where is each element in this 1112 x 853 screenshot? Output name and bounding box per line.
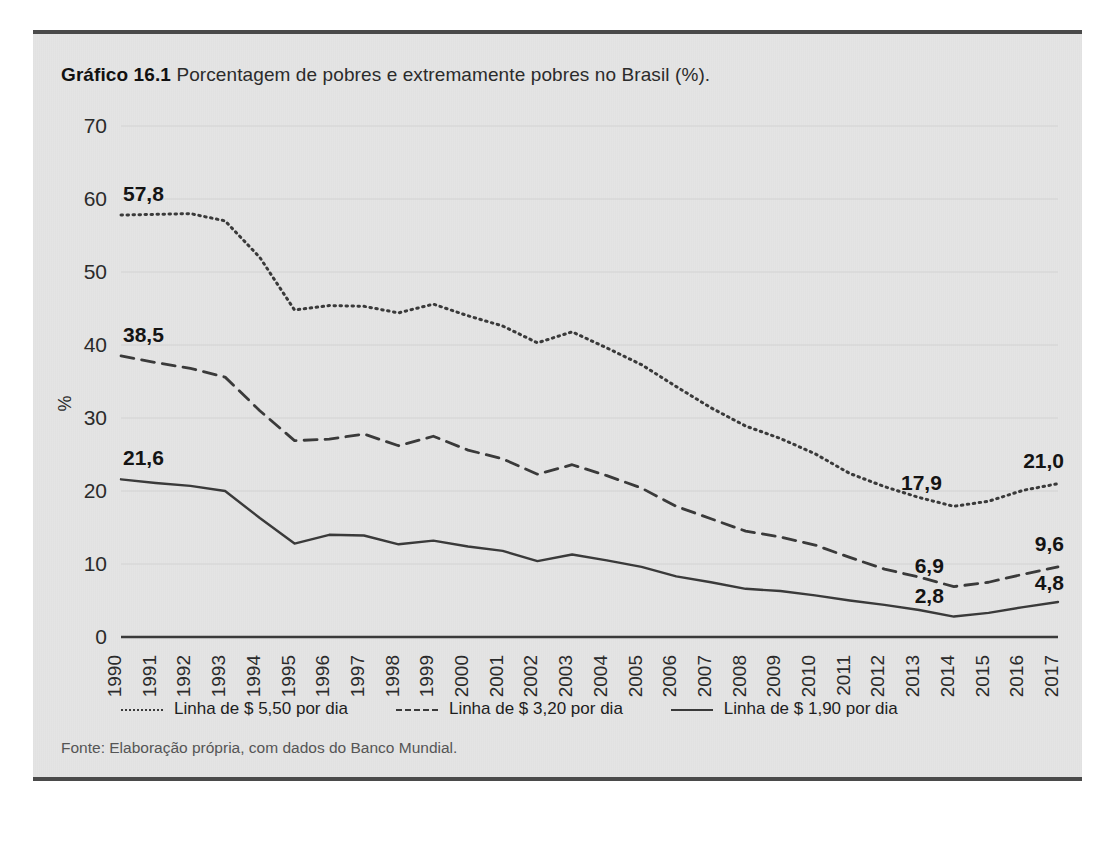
legend-label: Linha de $ 5,50 por dia	[174, 699, 348, 719]
x-axis-tick-label: 1999	[416, 655, 437, 697]
x-axis-tick-label: 2003	[555, 655, 576, 697]
x-axis-tick-label: 2007	[694, 655, 715, 697]
data-point-label: 4,8	[1035, 571, 1065, 594]
legend-entry: Linha de $ 5,50 por dia	[121, 699, 348, 719]
data-point-label: 17,9	[901, 471, 942, 494]
legend-entry: Linha de $ 1,90 por dia	[671, 699, 898, 719]
x-axis-tick-label: 2014	[937, 655, 958, 698]
data-point-label: 21,0	[1023, 449, 1064, 472]
figure-panel: Gráfico 16.1 Porcentagem de pobres e ext…	[33, 30, 1082, 781]
source-note: Fonte: Elaboração própria, com dados do …	[61, 739, 457, 757]
y-axis-title: %	[55, 395, 75, 411]
x-axis-tick-label: 2015	[972, 655, 993, 697]
data-point-label: 38,5	[123, 323, 164, 346]
x-axis-tick-label: 2009	[763, 655, 784, 697]
x-axis-tick-label: 2002	[520, 655, 541, 697]
x-axis-tick-label: 2011	[833, 655, 854, 696]
x-axis-tick-label: 1993	[208, 655, 229, 697]
x-axis-tick-label: 1998	[382, 655, 403, 697]
legend-label: Linha de $ 3,20 por dia	[449, 699, 623, 719]
y-axis-tick-label: 70	[84, 114, 107, 137]
legend-swatch-solid-icon	[671, 703, 713, 715]
x-axis-tick-label: 2016	[1006, 655, 1027, 697]
x-axis-tick-label: 1991	[139, 655, 160, 697]
line-chart: 010203040506070%199019911992199319941995…	[33, 34, 1082, 785]
chart-area: 010203040506070%199019911992199319941995…	[33, 34, 1082, 785]
x-axis-tick-label: 1996	[312, 655, 333, 697]
x-axis-tick-label: 1997	[347, 655, 368, 697]
x-axis-tick-label: 2006	[659, 655, 680, 697]
data-point-label: 2,8	[915, 584, 945, 607]
y-axis-tick-label: 20	[84, 479, 107, 502]
y-axis-tick-label: 0	[95, 625, 107, 648]
x-axis-tick-label: 2000	[451, 655, 472, 697]
legend-swatch-dotted-icon	[121, 703, 163, 715]
x-axis-tick-label: 2008	[729, 655, 750, 697]
x-axis-tick-label: 2004	[590, 655, 611, 698]
legend-swatch-dashed-icon	[396, 703, 438, 715]
y-axis-tick-label: 60	[84, 187, 107, 210]
x-axis-tick-label: 2010	[798, 655, 819, 697]
y-axis-tick-label: 30	[84, 406, 107, 429]
legend-entry: Linha de $ 3,20 por dia	[396, 699, 623, 719]
x-axis-tick-label: 1992	[173, 655, 194, 697]
series-line-dotted	[121, 214, 1058, 507]
data-point-label: 6,9	[915, 554, 944, 577]
x-axis-tick-label: 2013	[902, 655, 923, 697]
x-axis-tick-label: 1990	[104, 655, 125, 697]
y-axis-tick-label: 50	[84, 260, 107, 283]
data-point-label: 21,6	[123, 446, 164, 469]
data-point-label: 9,6	[1035, 532, 1064, 555]
x-axis-tick-label: 1995	[278, 655, 299, 697]
x-axis-tick-label: 2017	[1041, 655, 1062, 697]
chart-legend: Linha de $ 5,50 por diaLinha de $ 3,20 p…	[121, 699, 1021, 719]
x-axis-tick-label: 2012	[867, 655, 888, 697]
x-axis-tick-label: 1994	[243, 655, 264, 698]
x-axis-tick-label: 2005	[625, 655, 646, 697]
data-point-label: 57,8	[123, 182, 164, 205]
y-axis-tick-label: 40	[84, 333, 107, 356]
legend-label: Linha de $ 1,90 por dia	[724, 699, 898, 719]
x-axis-tick-label: 2001	[486, 655, 507, 697]
y-axis-tick-label: 10	[84, 552, 107, 575]
